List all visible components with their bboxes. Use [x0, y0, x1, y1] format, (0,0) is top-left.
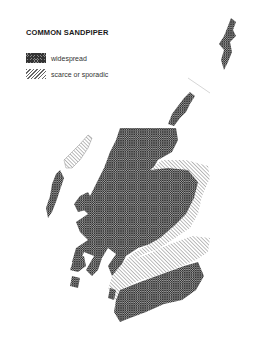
distribution-map: [0, 0, 261, 355]
uists: [46, 170, 64, 218]
islay: [70, 276, 80, 288]
shetland: [219, 18, 236, 70]
lewis-harris: [64, 135, 92, 168]
orkney: [168, 92, 195, 126]
mull: [70, 256, 86, 272]
